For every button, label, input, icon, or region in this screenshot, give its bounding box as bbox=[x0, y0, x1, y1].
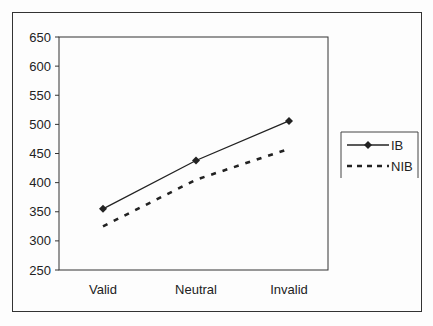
line-chart: 250300350400450500550600650 ValidNeutral… bbox=[0, 0, 433, 326]
y-tick-label: 400 bbox=[29, 175, 51, 190]
legend: IBNIB bbox=[341, 132, 418, 178]
diamond-marker-icon bbox=[285, 117, 293, 125]
legend-nib-label: NIB bbox=[391, 159, 413, 174]
plot-border bbox=[59, 37, 328, 270]
y-tick-label: 500 bbox=[29, 117, 51, 132]
diamond-marker-icon bbox=[99, 205, 107, 213]
plot-area bbox=[59, 37, 328, 270]
diamond-marker-icon bbox=[364, 141, 372, 149]
y-tick-label: 600 bbox=[29, 59, 51, 74]
y-tick-label: 300 bbox=[29, 233, 51, 248]
x-tick-label: Invalid bbox=[270, 282, 308, 297]
y-tick-label: 250 bbox=[29, 263, 51, 278]
y-tick-label: 350 bbox=[29, 204, 51, 219]
x-axis: ValidNeutralInvalid bbox=[89, 282, 308, 297]
y-tick-label: 650 bbox=[29, 30, 51, 45]
x-tick-label: Neutral bbox=[175, 282, 217, 297]
series-ib-line bbox=[103, 121, 289, 209]
diamond-marker-icon bbox=[192, 156, 200, 164]
y-tick-label: 450 bbox=[29, 146, 51, 161]
series-lines bbox=[99, 117, 293, 226]
legend-ib-label: IB bbox=[391, 138, 403, 153]
x-tick-label: Valid bbox=[89, 282, 117, 297]
y-tick-label: 550 bbox=[29, 88, 51, 103]
y-axis: 250300350400450500550600650 bbox=[29, 30, 59, 278]
